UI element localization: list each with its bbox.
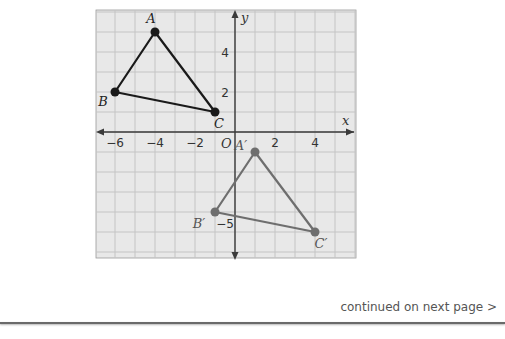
x-tick-label: −2 (186, 136, 204, 150)
y-axis-label: y (240, 10, 249, 25)
vertex-label: A (145, 11, 155, 26)
x-tick-label: 4 (311, 136, 319, 150)
vertex-label: A′ (234, 138, 247, 153)
vertex-label: C′ (315, 236, 328, 251)
x-tick-label: −6 (106, 136, 124, 150)
coordinate-plane: xyO −6−4−22442−5 ABCA′B′C′ (0, 0, 505, 300)
origin-label: O (221, 136, 232, 151)
footer-divider (0, 322, 505, 324)
vertex-label: B (97, 94, 108, 109)
y-tick-label: 4 (221, 46, 229, 60)
vertex-label: B′ (192, 216, 206, 231)
vertex-point (151, 28, 160, 37)
vertex-label: C (214, 116, 224, 131)
x-tick-label: 2 (271, 136, 279, 150)
vertex-point (251, 148, 260, 157)
vertex-point (211, 208, 220, 217)
vertex-point (111, 88, 120, 97)
x-tick-label: −4 (146, 136, 164, 150)
y-tick-label: 2 (221, 86, 229, 100)
continued-on-next-page[interactable]: continued on next page > (340, 300, 497, 314)
x-axis-label: x (342, 113, 350, 128)
y-tick-label: −5 (216, 217, 234, 231)
